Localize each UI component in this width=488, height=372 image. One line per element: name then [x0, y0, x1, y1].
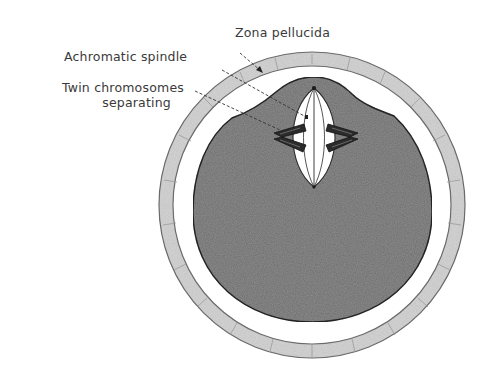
spindle-pole-top [312, 86, 316, 90]
ovum-diagram: Zona pellucida Achromatic spindle Twin c… [0, 0, 488, 372]
label-twin-chromosomes: Twin chromosomes [33, 81, 184, 95]
label-zona-pellucida: Zona pellucida [235, 26, 330, 40]
tick-spindle [305, 115, 308, 119]
label-separating: separating [33, 96, 171, 110]
label-achromatic-spindle: Achromatic spindle [64, 50, 187, 64]
spindle-pole-bottom [312, 185, 315, 188]
